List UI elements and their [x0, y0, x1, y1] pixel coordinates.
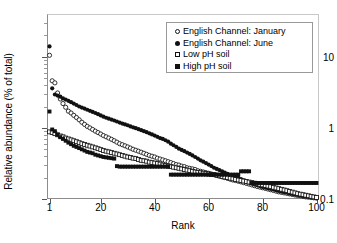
- x-tick-mark: [263, 199, 264, 204]
- legend-item[interactable]: English Channel: January: [172, 26, 308, 37]
- x-tick-mark: [50, 199, 51, 204]
- data-point: [315, 181, 319, 185]
- x-axis-title: Rank: [47, 220, 319, 231]
- legend-item[interactable]: English Channel: June: [172, 38, 308, 49]
- legend-label: High pH soil: [183, 61, 232, 72]
- y-tick-mark: [42, 199, 47, 200]
- legend-label: English Channel: June: [183, 38, 273, 49]
- data-point: [50, 86, 54, 90]
- legend-marker-circle-open-icon: [172, 29, 183, 34]
- marker-glyph: [175, 41, 180, 46]
- marker-glyph: [175, 64, 180, 69]
- legend-marker-circle-fill-icon: [172, 41, 183, 46]
- x-tick-mark: [209, 199, 210, 204]
- data-point: [48, 110, 52, 114]
- legend-label: Low pH soil: [183, 49, 230, 60]
- data-point: [247, 169, 251, 173]
- data-point: [315, 196, 319, 200]
- data-point: [61, 101, 65, 105]
- series-circle-open: [47, 53, 318, 200]
- legend-marker-square-open-icon: [172, 52, 183, 57]
- y-axis-title: Relative abundance (% of total): [0, 0, 16, 243]
- x-tick-mark: [101, 199, 102, 204]
- data-point: [236, 173, 240, 177]
- legend: English Channel: JanuaryEnglish Channel:…: [166, 22, 313, 73]
- data-point: [166, 165, 170, 169]
- data-point: [47, 44, 51, 48]
- data-point: [47, 53, 51, 57]
- data-point: [112, 157, 116, 161]
- data-point: [53, 81, 57, 85]
- marker-glyph: [175, 29, 180, 34]
- data-point: [53, 129, 57, 133]
- marker-glyph: [175, 52, 180, 57]
- data-point: [64, 105, 68, 109]
- legend-item[interactable]: High pH soil: [172, 61, 308, 72]
- x-tick-mark: [155, 199, 156, 204]
- legend-item[interactable]: Low pH soil: [172, 49, 308, 60]
- legend-marker-square-fill-icon: [172, 64, 183, 69]
- legend-label: English Channel: January: [183, 26, 286, 37]
